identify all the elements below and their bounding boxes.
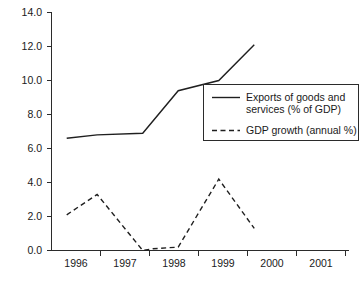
x-tick-label-1996: 1996 [64,257,88,269]
x-tick-label-2001: 2001 [309,257,333,269]
line-chart: 14.0 12.0 10.0 8.0 6.0 4.0 2.0 0.0 1996 … [0,0,363,283]
legend-label-exports-line2: services (% of GDP) [246,103,341,115]
x-tick-label-1997: 1997 [113,257,137,269]
x-tick-label-1999: 1999 [211,257,235,269]
legend: Exports of goods and services (% of GDP)… [204,85,359,141]
y-tick-label-8: 8.0 [27,108,42,120]
y-tick-marks [47,13,52,251]
series-line-gdp-growth [67,179,255,250]
legend-label-gdp-growth: GDP growth (annual %) [246,124,357,136]
x-tick-marks [101,251,346,257]
y-tick-label-2: 2.0 [27,210,42,222]
y-tick-label-14: 14.0 [22,6,43,18]
x-tick-label-2000: 2000 [260,257,284,269]
y-tick-label-0: 0.0 [27,244,42,256]
y-tick-label-10: 10.0 [22,74,43,86]
y-tick-label-6: 6.0 [27,142,42,154]
x-tick-label-1998: 1998 [162,257,186,269]
y-tick-label-12: 12.0 [22,40,43,52]
legend-label-exports-line1: Exports of goods and [246,91,345,103]
chart-container: 14.0 12.0 10.0 8.0 6.0 4.0 2.0 0.0 1996 … [0,0,363,283]
y-tick-label-4: 4.0 [27,176,42,188]
